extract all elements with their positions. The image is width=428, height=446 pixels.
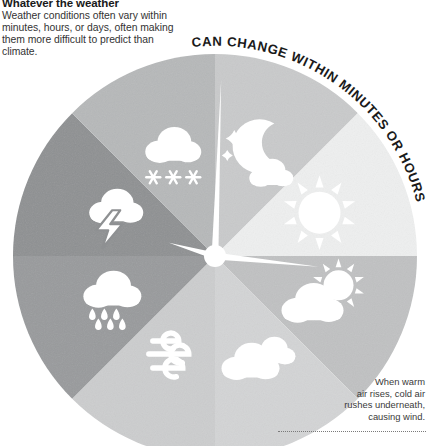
clock-hub	[204, 245, 226, 267]
wind-caption-line-2: air rises, cold air	[309, 388, 425, 400]
wind-caption: When warm air rises, cold air rushes und…	[309, 376, 425, 422]
wind-caption-line-3: rushes underneath,	[309, 399, 425, 411]
caption-divider	[278, 431, 426, 434]
wind-caption-line-4: causing wind.	[309, 411, 425, 423]
wind-caption-line-1: When warm	[309, 376, 425, 388]
